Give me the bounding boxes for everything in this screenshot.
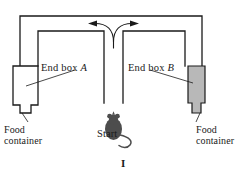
food-container-left-label: Food container	[4, 125, 42, 147]
end-box-a-shape	[13, 66, 38, 113]
arrow-right-head	[130, 21, 139, 27]
mouse-ear-left	[107, 114, 112, 119]
leader-lines	[22, 70, 200, 122]
food-container-left-line2: container	[4, 136, 42, 147]
start-label: Start	[97, 128, 117, 139]
end-box-a-group	[13, 66, 38, 113]
figure-caption: I	[121, 158, 126, 170]
figure-container: End box A End box B Food container Food …	[0, 0, 252, 177]
food-container-right-line2: container	[196, 136, 234, 147]
mouse-ear-right	[115, 114, 120, 119]
arrow-left-head	[88, 21, 97, 27]
outer-wall-path	[20, 16, 202, 66]
food-container-right-label: Food container	[196, 125, 234, 147]
mouse-snout	[112, 111, 115, 114]
leader-food-left	[22, 113, 28, 122]
end-box-b-label: End box B	[128, 62, 174, 73]
end-box-b-label-text: End box	[128, 62, 168, 73]
choice-arrow-heads	[88, 21, 139, 27]
maze-outer-walls	[20, 16, 202, 66]
end-box-a-label-text: End box	[41, 62, 81, 73]
mouse-tail	[119, 135, 131, 147]
maze-diagram	[0, 0, 252, 177]
end-box-a-label: End box A	[41, 62, 87, 73]
choice-arrows	[95, 24, 132, 49]
leader-food-right	[196, 113, 200, 122]
end-box-b-shape	[188, 66, 205, 113]
end-box-b-group	[188, 66, 205, 113]
end-box-b-label-letter: B	[168, 62, 175, 73]
end-box-a-label-letter: A	[81, 62, 88, 73]
